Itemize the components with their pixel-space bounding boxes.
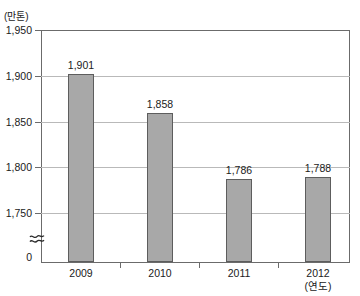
- y-tick-label-1800: 1,800: [0, 162, 32, 173]
- y-tick-label-1750: 1,750: [0, 208, 32, 219]
- x-tick-separator-3: [278, 263, 279, 268]
- y-tick-label-1850: 1,850: [0, 117, 32, 128]
- bar-chart: (만톤) 1,950 1,900 1,850 1,800 1,750 0 1,9…: [0, 0, 360, 296]
- y-tick-label-1950: 1,950: [0, 25, 32, 36]
- x-axis-label-2011: 2011: [209, 267, 269, 279]
- bar-2009: [68, 74, 94, 262]
- bar-value-2011: 1,786: [209, 165, 269, 176]
- bar-value-2009: 1,901: [51, 60, 111, 71]
- x-axis-label-2012: 2012: [288, 267, 348, 279]
- y-tick-label-zero: 0: [0, 252, 32, 263]
- x-axis-unit-label: (연도): [288, 280, 348, 292]
- y-tick-mark-1900: [35, 76, 41, 77]
- y-tick-label-1900: 1,900: [0, 71, 32, 82]
- x-tick-separator-2: [199, 263, 200, 268]
- bar-value-2010: 1,858: [130, 99, 190, 110]
- bar-2010: [147, 113, 173, 262]
- y-tick-mark-1800: [35, 167, 41, 168]
- x-axis-label-2010: 2010: [130, 267, 190, 279]
- bar-2012: [305, 177, 331, 262]
- chart-title: [0, 0, 360, 2]
- y-tick-mark-1750: [35, 213, 41, 214]
- bar-2011: [226, 179, 252, 262]
- y-axis-unit-label: (만톤): [4, 11, 29, 22]
- x-axis-label-2009: 2009: [51, 267, 111, 279]
- x-tick-separator-1: [120, 263, 121, 268]
- y-tick-mark-1850: [35, 122, 41, 123]
- y-tick-mark-1950: [35, 30, 41, 31]
- axis-break-icon: [29, 231, 45, 247]
- bar-value-2012: 1,788: [288, 163, 348, 174]
